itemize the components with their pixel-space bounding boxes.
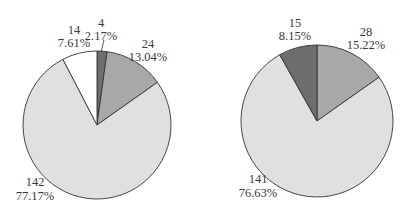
label-right-slice3-value: 15 — [289, 16, 302, 30]
label-left-slice3-value: 142 — [26, 175, 45, 189]
label-left-slice4-value: 14 — [68, 23, 81, 37]
label-left-slice4-percent: 7.61% — [58, 36, 90, 50]
label-left-slice2-value: 24 — [142, 37, 155, 51]
pie-chart-left — [23, 51, 171, 199]
label-left-slice2-percent: 13.04% — [129, 50, 168, 64]
label-right-slice2-percent: 76.63% — [239, 186, 278, 200]
label-left-slice3-percent: 77.17% — [16, 189, 55, 203]
label-right-slice1-percent: 15.22% — [347, 38, 386, 52]
label-right-slice2-value: 141 — [249, 172, 268, 186]
label-right-slice3-percent: 8.15% — [279, 29, 311, 43]
pie-charts: 4 2.17% 24 13.04% 142 77.17% 14 7.61% 28… — [0, 0, 405, 214]
label-right-slice1-value: 28 — [360, 25, 373, 39]
label-left-slice1-value: 4 — [98, 16, 105, 30]
